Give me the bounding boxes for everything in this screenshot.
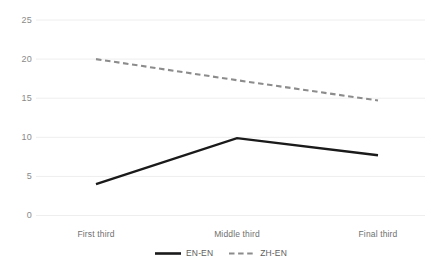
legend-swatch-dashed-icon [229, 249, 255, 258]
gridlines [36, 20, 425, 216]
series-zh-en [96, 59, 378, 100]
legend-label-en-en: EN-EN [186, 248, 213, 258]
x-tick-final-third: Final third [359, 229, 398, 239]
chart-legend: EN-EN ZH-EN [0, 248, 442, 258]
y-axis-tick-labels: 25 20 15 10 5 0 [4, 0, 32, 275]
legend-item-en-en[interactable]: EN-EN [155, 248, 213, 258]
y-tick-0: 0 [6, 210, 32, 220]
y-tick-15: 15 [6, 93, 32, 103]
x-tick-first-third: First third [77, 229, 114, 239]
line-chart: 25 20 15 10 5 0 First third Middle third… [0, 0, 442, 275]
series-en-en-line [96, 138, 378, 184]
y-tick-25: 25 [6, 15, 32, 25]
y-tick-5: 5 [6, 171, 32, 181]
series-zh-en-line [96, 59, 378, 100]
y-tick-20: 20 [6, 54, 32, 64]
series-en-en [96, 138, 378, 184]
y-tick-10: 10 [6, 132, 32, 142]
legend-swatch-solid-icon [155, 249, 181, 258]
legend-label-zh-en: ZH-EN [260, 248, 287, 258]
x-tick-middle-third: Middle third [214, 229, 260, 239]
legend-item-zh-en[interactable]: ZH-EN [229, 248, 287, 258]
